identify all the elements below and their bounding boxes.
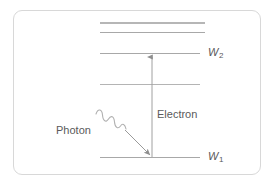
w1-symbol: W (208, 150, 218, 162)
energy-level-diagram: W2 W1 Electron Photon (0, 0, 278, 186)
w2-symbol: W (208, 46, 218, 58)
electron-label: Electron (157, 108, 197, 120)
diagram-canvas (0, 0, 278, 186)
photon-arrow (125, 130, 150, 155)
energy-level-label-w2: W2 (208, 46, 223, 58)
w2-subscript: 2 (219, 51, 223, 60)
photon-label: Photon (56, 124, 91, 136)
photon-wave (96, 110, 126, 129)
energy-level-label-w1: W1 (208, 150, 223, 162)
w1-subscript: 1 (219, 155, 223, 164)
